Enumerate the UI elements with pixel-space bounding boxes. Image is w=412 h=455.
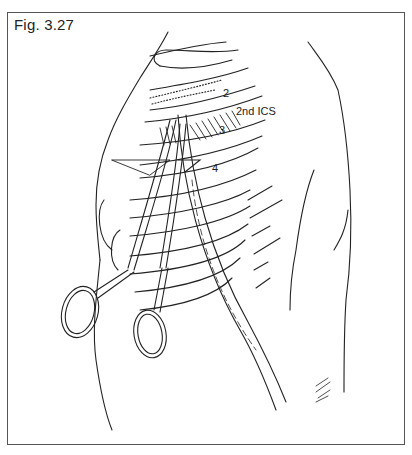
artist-signature: [316, 378, 330, 402]
label-2nd-ics: 2nd ICS: [236, 105, 276, 117]
arm-outline: [96, 32, 168, 260]
hemostat-clamp: [56, 120, 186, 360]
chest-wall-illustration: 2 2nd ICS 3 4: [0, 0, 412, 455]
clamp-ring-right: [130, 308, 170, 361]
chest-tube-left: [178, 115, 276, 410]
torso-outline-right: [308, 42, 351, 392]
label-rib-2: 2: [223, 87, 229, 99]
label-rib-3: 3: [219, 124, 225, 136]
label-rib-4: 4: [212, 162, 218, 174]
